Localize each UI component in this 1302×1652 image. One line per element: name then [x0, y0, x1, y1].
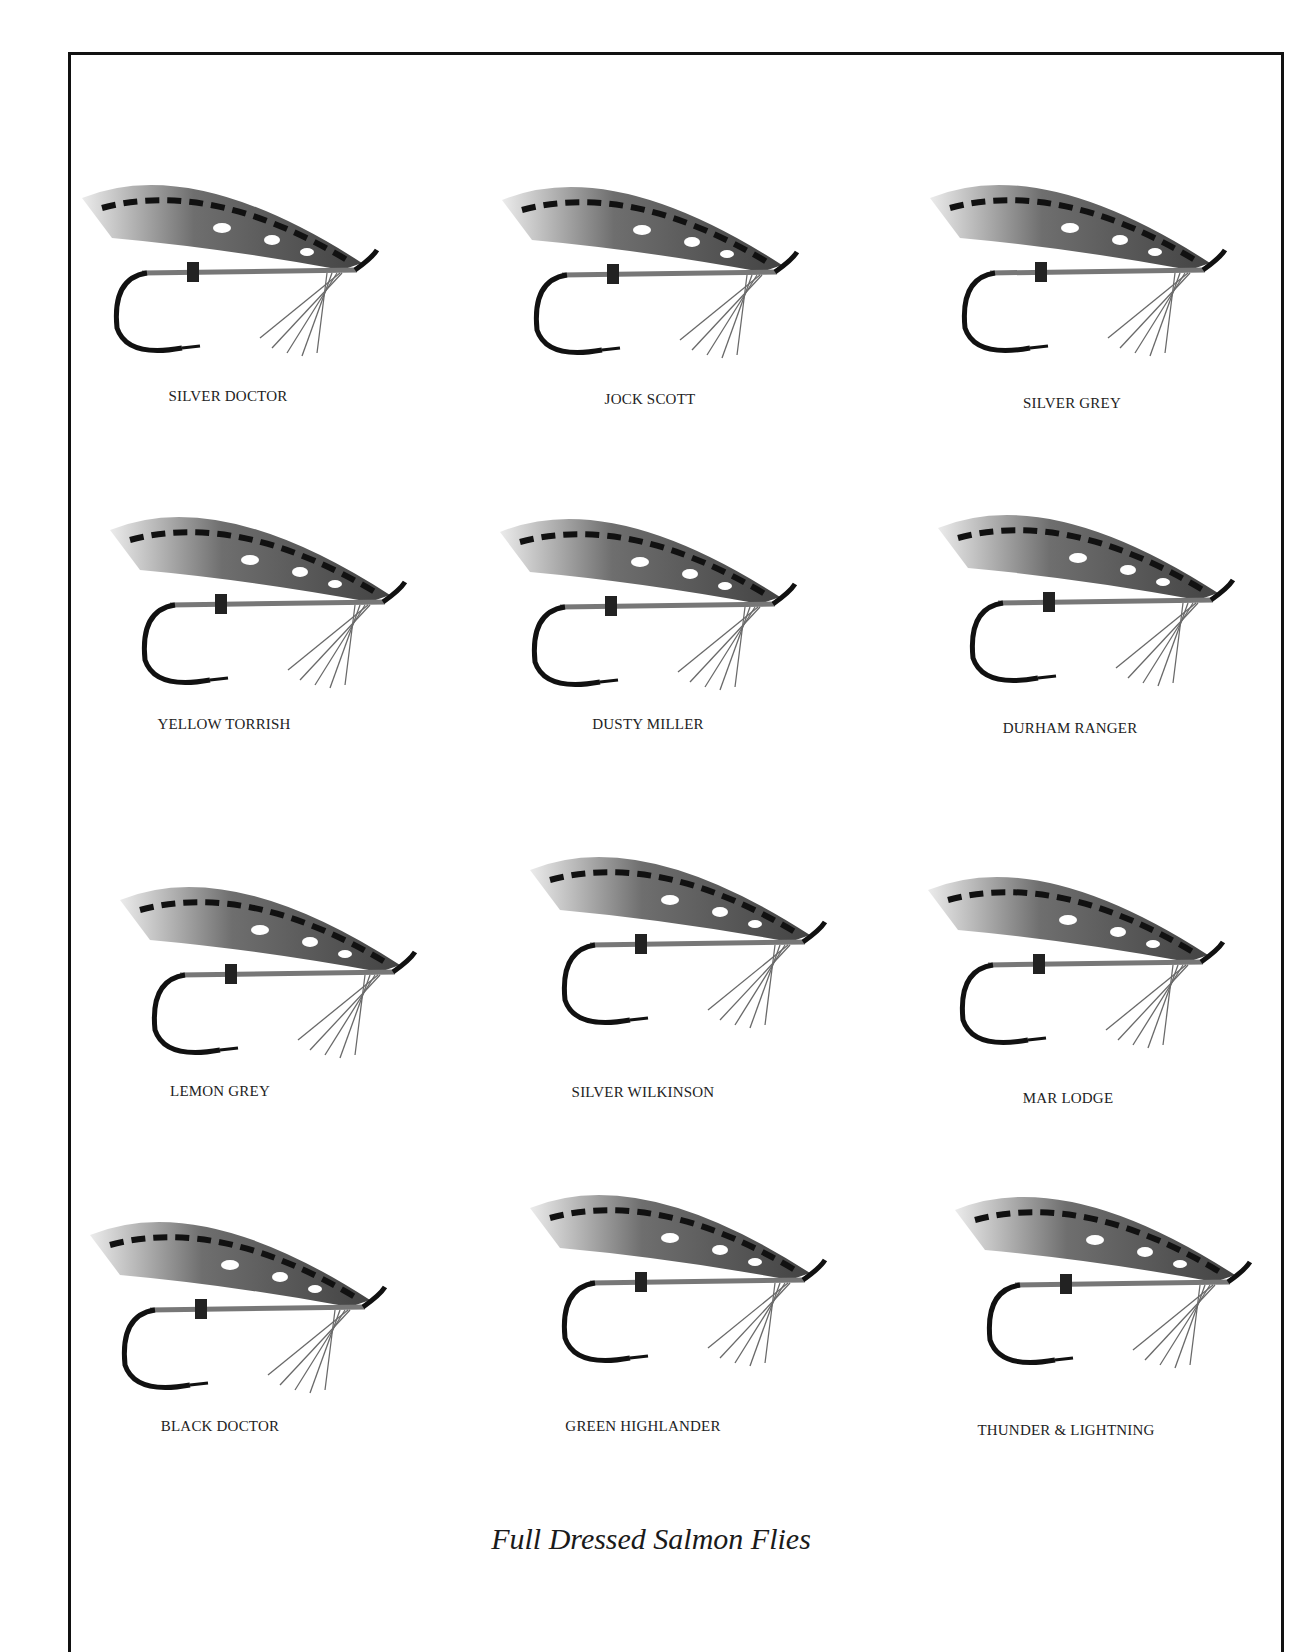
fly-name-label: SILVER WILKINSON [572, 1084, 715, 1101]
fly-name-label: YELLOW TORRISH [157, 716, 290, 733]
fly-illustration [520, 1168, 840, 1382]
salmon-fly-icon [920, 158, 1240, 368]
salmon-fly-icon [100, 490, 420, 700]
fly-name-label: GREEN HIGHLANDER [565, 1418, 720, 1435]
salmon-fly-icon [520, 1168, 840, 1378]
salmon-fly-icon [918, 850, 1238, 1060]
salmon-fly-icon [945, 1170, 1265, 1380]
fly-illustration [918, 850, 1238, 1064]
salmon-fly-icon [72, 158, 392, 368]
fly-illustration [100, 490, 420, 704]
fly-illustration [928, 488, 1248, 702]
fly-illustration [945, 1170, 1265, 1384]
fly-name-label: DURHAM RANGER [1003, 720, 1138, 737]
salmon-fly-icon [520, 830, 840, 1040]
salmon-fly-icon [80, 1195, 400, 1405]
fly-name-label: BLACK DOCTOR [161, 1418, 279, 1435]
fly-illustration [490, 492, 810, 706]
salmon-fly-icon [110, 860, 430, 1070]
plate-caption: Full Dressed Salmon Flies [0, 1522, 1302, 1556]
fly-illustration [72, 158, 392, 372]
salmon-fly-icon [490, 492, 810, 702]
fly-name-label: MAR LODGE [1023, 1090, 1114, 1107]
fly-name-label: LEMON GREY [170, 1083, 270, 1100]
fly-illustration [520, 830, 840, 1044]
fly-illustration [80, 1195, 400, 1409]
fly-name-label: DUSTY MILLER [592, 716, 703, 733]
salmon-fly-icon [928, 488, 1248, 698]
fly-name-label: JOCK SCOTT [605, 391, 696, 408]
fly-name-label: SILVER GREY [1023, 395, 1121, 412]
fly-illustration [492, 160, 812, 374]
fly-name-label: THUNDER & LIGHTNING [977, 1422, 1154, 1439]
fly-illustration [110, 860, 430, 1074]
fly-name-label: SILVER DOCTOR [169, 388, 288, 405]
salmon-fly-icon [492, 160, 812, 370]
fly-illustration [920, 158, 1240, 372]
